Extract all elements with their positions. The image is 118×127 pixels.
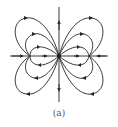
arrowhead <box>26 92 30 96</box>
arrowhead <box>80 32 84 36</box>
loop-left-lower-large <box>15 56 59 94</box>
arrowhead <box>34 76 38 80</box>
arrowhead <box>38 63 41 67</box>
arrowhead <box>89 16 93 20</box>
loop-right-upper-large <box>59 18 103 56</box>
arrowhead <box>37 45 40 49</box>
loop-right-lower-large <box>59 56 103 94</box>
loop-left-upper-large <box>15 18 59 56</box>
arrowhead <box>90 92 94 96</box>
arrowhead <box>82 76 86 80</box>
arrowhead <box>32 32 36 36</box>
arrowhead <box>78 63 81 67</box>
arrowhead <box>77 45 80 49</box>
origin-node <box>57 54 61 58</box>
arrowhead <box>24 16 28 20</box>
figure-caption: (a) <box>0 108 118 118</box>
